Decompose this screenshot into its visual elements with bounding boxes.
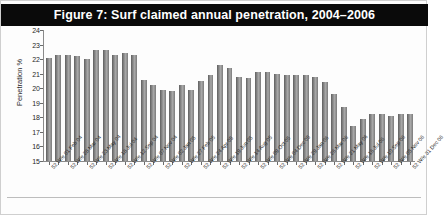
- figure-title: Figure 7: Surf claimed annual penetratio…: [54, 8, 375, 22]
- y-tick-label: 21: [32, 70, 40, 77]
- bar: [303, 75, 309, 161]
- bar: [284, 75, 290, 161]
- y-tick-label: 15: [32, 158, 40, 165]
- chart-plot-area: Penetration % 15161718192021222324 52 W/…: [1, 26, 428, 216]
- bar: [227, 68, 233, 161]
- x-axis-labels: 52 W/e 01 Feb 0452 W/e 28 Mar 0452 W/e 2…: [44, 165, 415, 221]
- y-tick-label: 16: [32, 143, 40, 150]
- y-tick-label: 18: [32, 114, 40, 121]
- y-tick-label: 20: [32, 85, 40, 92]
- y-axis-ticks: 15161718192021222324: [23, 26, 43, 166]
- y-tick-label: 19: [32, 99, 40, 106]
- y-tick-label: 24: [32, 27, 40, 34]
- bar: [150, 85, 156, 161]
- bar: [188, 90, 194, 161]
- bar: [46, 58, 52, 161]
- bar: [265, 72, 271, 161]
- bar: [169, 91, 175, 161]
- y-tick-label: 22: [32, 56, 40, 63]
- bar: [246, 78, 252, 161]
- bar: [208, 75, 214, 161]
- bar: [322, 82, 328, 161]
- y-tick-label: 23: [32, 41, 40, 48]
- figure-title-bar: Figure 7: Surf claimed annual penetratio…: [1, 4, 428, 26]
- bar: [55, 55, 61, 161]
- y-tick-label: 17: [32, 128, 40, 135]
- figure-bottom-rule: [7, 197, 421, 198]
